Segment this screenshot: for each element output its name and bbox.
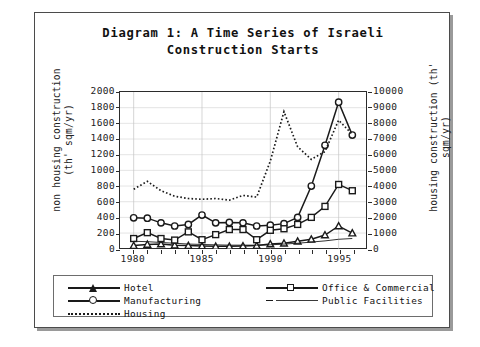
x-tick-label: 1985 <box>189 253 213 264</box>
legend-label: Office & Commercial <box>322 282 435 293</box>
series-line-housing <box>134 112 353 200</box>
tick-mark <box>116 92 120 93</box>
series-line-manufacturing <box>134 102 353 226</box>
tick-mark <box>368 234 372 235</box>
data-point-marker <box>349 230 356 236</box>
data-point-marker <box>294 214 300 220</box>
data-point-marker <box>295 221 301 227</box>
tick-mark <box>230 250 231 254</box>
y-tick-label: 200 <box>65 225 115 241</box>
tick-mark <box>116 202 120 203</box>
tick-mark <box>368 107 372 108</box>
legend-symbol-icon <box>266 295 318 307</box>
tick-mark <box>368 186 372 187</box>
tick-mark <box>161 250 162 254</box>
y-tick-label: 1200 <box>65 146 115 162</box>
tick-mark <box>244 250 245 254</box>
tick-mark <box>202 250 203 254</box>
tick-mark <box>133 250 134 254</box>
data-point-marker <box>171 223 177 229</box>
data-point-marker <box>130 215 136 221</box>
data-point-marker <box>212 243 219 249</box>
y-tick-label: 600 <box>65 194 115 210</box>
data-point-marker <box>308 236 315 242</box>
tick-mark <box>368 171 372 172</box>
legend-label: Manufacturing <box>124 295 201 306</box>
plot-area <box>119 91 367 249</box>
data-point-marker <box>185 221 191 227</box>
y-tick-label: 400 <box>65 209 115 225</box>
data-point-marker <box>349 188 355 194</box>
data-point-marker <box>226 243 233 249</box>
tick-mark <box>116 139 120 140</box>
data-point-marker <box>240 227 246 233</box>
legend-item-public-facilities[interactable]: Public Facilities <box>266 294 423 307</box>
tick-mark <box>216 250 217 254</box>
tick-mark <box>368 202 372 203</box>
data-point-marker <box>240 220 246 226</box>
data-point-marker <box>213 232 219 238</box>
y2-tick-label: 8000 <box>373 115 421 131</box>
legend-label: Hotel <box>124 282 154 293</box>
chart-legend: HotelManufacturingHousingOffice & Commer… <box>53 275 433 317</box>
data-point-marker <box>336 181 342 187</box>
x-axis-ticks: 1980198519901995 <box>119 253 367 267</box>
tick-mark <box>340 250 341 254</box>
y-tick-label: 2000 <box>65 83 115 99</box>
y-tick-label: 800 <box>65 178 115 194</box>
y-tick-label: 1000 <box>65 162 115 178</box>
tick-mark <box>116 186 120 187</box>
y2-tick-label: 3000 <box>373 194 421 210</box>
data-point-marker <box>267 227 273 233</box>
data-point-marker <box>253 223 259 229</box>
legend-item-manufacturing[interactable]: Manufacturing <box>68 294 201 307</box>
x-tick-label: 1995 <box>327 253 351 264</box>
y-axis-right-label: housing construction (th' sqm/yr) <box>428 62 452 212</box>
data-point-marker <box>144 215 150 221</box>
data-point-marker <box>267 241 274 247</box>
data-point-marker <box>281 226 287 232</box>
legend-item-office-commercial[interactable]: Office & Commercial <box>266 281 435 294</box>
legend-label: Public Facilities <box>322 295 423 306</box>
legend-item-hotel[interactable]: Hotel <box>68 281 154 294</box>
legend-symbol-icon <box>68 282 120 294</box>
data-point-marker <box>322 232 329 238</box>
tick-mark <box>368 155 372 156</box>
data-point-marker <box>308 183 314 189</box>
y-tick-label: 0 <box>65 241 115 257</box>
y-tick-label: 1600 <box>65 115 115 131</box>
data-point-marker <box>158 236 164 242</box>
tick-mark <box>116 234 120 235</box>
data-point-marker <box>199 243 206 249</box>
data-point-marker <box>335 223 342 229</box>
legend-symbol-icon <box>266 282 318 294</box>
data-point-marker <box>158 220 164 226</box>
tick-mark <box>326 250 327 254</box>
tick-mark <box>354 250 355 254</box>
y-tick-label: 1800 <box>65 99 115 115</box>
data-point-marker <box>130 242 137 248</box>
figure-frame: Diagram 1: A Time Series of Israeli Cons… <box>34 12 450 328</box>
x-tick-label: 1990 <box>258 253 282 264</box>
data-series-layer <box>120 92 366 249</box>
data-point-marker <box>322 203 328 209</box>
data-point-marker <box>254 237 260 243</box>
data-point-marker <box>131 236 137 242</box>
y2-tick-label: 6000 <box>373 146 421 162</box>
legend-symbol-icon <box>68 308 120 320</box>
y2-tick-label: 2000 <box>373 209 421 225</box>
data-point-marker <box>226 227 232 233</box>
tick-mark <box>368 139 372 140</box>
y2-tick-label: 9000 <box>373 99 421 115</box>
y-tick-label: 1400 <box>65 130 115 146</box>
y2-tick-label: 10000 <box>373 83 421 99</box>
tick-mark <box>257 250 258 254</box>
y2-tick-label: 5000 <box>373 162 421 178</box>
tick-mark <box>285 250 286 254</box>
data-point-marker <box>226 219 232 225</box>
tick-mark <box>368 123 372 124</box>
legend-item-housing[interactable]: Housing <box>68 307 166 320</box>
tick-mark <box>271 250 272 254</box>
tick-mark <box>312 250 313 254</box>
data-point-marker <box>199 212 205 218</box>
